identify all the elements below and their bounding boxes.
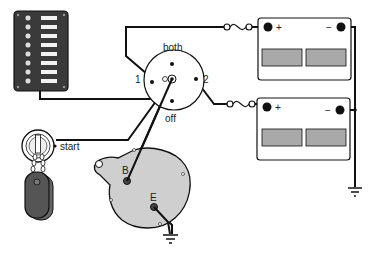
switch-label-2: 2: [203, 74, 209, 85]
switch-label-both: both: [163, 42, 182, 53]
ignition-label-start: start: [60, 141, 80, 152]
ignition-switch: start: [22, 130, 80, 220]
battery-1-negative-terminal: [337, 23, 346, 32]
battery-1-plus-label: +: [276, 22, 282, 33]
battery-2-negative-terminal: [336, 106, 345, 115]
breaker-panel: [14, 11, 68, 91]
battery-1-minus-label: −: [326, 22, 332, 33]
ground-icon-alternator: [163, 235, 178, 243]
alternator-label-e: E: [150, 192, 157, 203]
battery-2-positive-terminal: [263, 103, 272, 112]
position-1-dot: [150, 80, 154, 84]
switch-label-off: off: [165, 113, 176, 124]
battery-2-minus-label: −: [325, 105, 331, 116]
switch-label-1: 1: [135, 74, 141, 85]
position-off-dot: [170, 99, 174, 103]
battery-1-positive-terminal: [264, 23, 273, 32]
wiring-diagram: both 1 2 off + − + − start: [0, 0, 377, 254]
position-both-dot: [170, 62, 174, 66]
battery-2: + −: [257, 98, 350, 160]
battery-2-plus-label: +: [275, 102, 281, 113]
battery-1: + −: [258, 18, 351, 80]
position-2-dot: [194, 77, 198, 81]
key-icon: [36, 135, 41, 153]
alternator-label-b: B: [122, 165, 129, 176]
battery-selector-switch: both 1 2 off: [135, 42, 209, 124]
ground-icon-batteries: [348, 188, 362, 196]
alternator: B E: [94, 148, 190, 228]
key-fob: [25, 172, 53, 220]
